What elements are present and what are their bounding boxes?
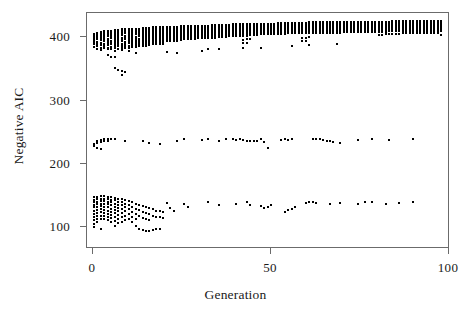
scatter-point [346, 31, 348, 33]
scatter-point [256, 34, 258, 36]
plot-area [86, 12, 449, 248]
scatter-point [211, 37, 213, 39]
scatter-point [201, 37, 203, 39]
x-axis-label: Generation [0, 287, 471, 303]
scatter-point [357, 139, 359, 141]
scatter-point [329, 203, 331, 205]
scatter-point [312, 201, 314, 203]
scatter-point [121, 70, 123, 72]
scatter-point [142, 229, 144, 231]
scatter-point [148, 230, 150, 232]
scatter-point [183, 138, 185, 140]
scatter-point [135, 208, 137, 210]
scatter-point [388, 33, 390, 35]
scatter-point [267, 206, 269, 208]
scatter-point [166, 51, 168, 53]
scatter-point [100, 205, 102, 207]
scatter-point [235, 35, 237, 37]
scatter-point [162, 211, 164, 213]
scatter-point [388, 30, 390, 32]
scatter-point [405, 32, 407, 34]
scatter-point [419, 32, 421, 34]
scatter-point [128, 204, 130, 206]
scatter-point [371, 201, 373, 203]
scatter-point [107, 140, 109, 142]
scatter-point [329, 140, 331, 142]
scatter-point [239, 138, 241, 140]
scatter-point [135, 203, 137, 205]
scatter-point [214, 37, 216, 39]
scatter-point [291, 138, 293, 140]
scatter-point [110, 56, 112, 58]
scatter-point [242, 42, 244, 44]
scatter-point [128, 47, 130, 49]
scatter-point [315, 138, 317, 140]
scatter-point [249, 34, 251, 36]
scatter-point [135, 213, 137, 215]
scatter-point [100, 141, 102, 143]
scatter-point [159, 143, 161, 145]
scatter-point [114, 225, 116, 227]
scatter-point [433, 32, 435, 34]
scatter-point [103, 203, 105, 205]
scatter-point [152, 208, 154, 210]
scatter-point [332, 141, 334, 143]
scatter-point [249, 38, 251, 40]
scatter-point [114, 67, 116, 69]
scatter-point [308, 44, 310, 46]
scatter-point [124, 206, 126, 208]
scatter-point [128, 218, 130, 220]
scatter-point [135, 52, 137, 54]
scatter-point [124, 199, 126, 201]
scatter-point [142, 205, 144, 207]
scatter-point [100, 215, 102, 217]
scatter-point [218, 204, 220, 206]
scatter-point [218, 48, 220, 50]
scatter-point [159, 43, 161, 45]
scatter-point [308, 201, 310, 203]
scatter-point [391, 33, 393, 35]
scatter-point [166, 40, 168, 42]
scatter-point [322, 139, 324, 141]
scatter-point [176, 140, 178, 142]
scatter-point [93, 223, 95, 225]
scatter-point [246, 140, 248, 142]
scatter-point [138, 204, 140, 206]
scatter-point [107, 219, 109, 221]
scatter-point [93, 145, 95, 147]
scatter-point [96, 48, 98, 50]
scatter-point [395, 33, 397, 35]
chart-canvas: Negative AIC 400 300 200 100 0 50 100 Ge… [0, 0, 471, 318]
scatter-point [256, 140, 258, 142]
scatter-point [326, 32, 328, 34]
scatter-point [326, 140, 328, 142]
scatter-point [267, 33, 269, 35]
scatter-point [114, 56, 116, 58]
scatter-point [159, 216, 161, 218]
scatter-point [176, 40, 178, 42]
scatter-point [117, 201, 119, 203]
scatter-point [155, 228, 157, 230]
scatter-point [385, 203, 387, 205]
scatter-point [187, 206, 189, 208]
scatter-point [378, 31, 380, 33]
scatter-point [128, 200, 130, 202]
scatter-point [114, 216, 116, 218]
scatter-point [93, 33, 95, 35]
scatter-point [107, 48, 109, 50]
scatter-point [148, 142, 150, 144]
scatter-point [166, 202, 168, 204]
scatter-point [124, 203, 126, 205]
scatter-point [107, 203, 109, 205]
scatter-point [423, 32, 425, 34]
scatter-point [138, 215, 140, 217]
scatter-point [159, 210, 161, 212]
scatter-point [270, 204, 272, 206]
scatter-point [180, 39, 182, 41]
scatter-point [100, 228, 102, 230]
scatter-point [131, 221, 133, 223]
y-tick-label-100: 100 [30, 220, 70, 233]
scatter-point [249, 140, 251, 142]
scatter-point [267, 147, 269, 149]
scatter-point [103, 215, 105, 217]
